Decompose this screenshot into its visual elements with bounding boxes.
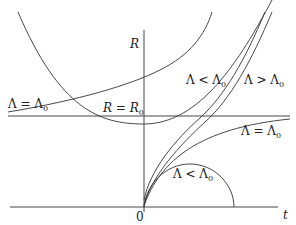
left-equal-label: Λ = Λ0 [7, 97, 48, 113]
lower-less-label: Λ < Λ0 [172, 167, 213, 183]
upper-less-label: Λ < Λ0 [185, 73, 226, 89]
origin-label: 0 [136, 210, 144, 224]
r-axis-label: R [129, 37, 139, 51]
right-equal-label: Λ = Λ0 [240, 124, 281, 140]
ref-line-label: R = R0 [102, 101, 144, 117]
bounce-curve [18, 0, 272, 124]
cosmology-diagram: R t 0 R = R0 Λ = Λ0 Λ < Λ0 Λ > Λ0 Λ = Λ0… [0, 0, 296, 225]
t-axis-label: t [283, 208, 288, 222]
upper-greater-label: Λ > Λ0 [243, 73, 284, 89]
